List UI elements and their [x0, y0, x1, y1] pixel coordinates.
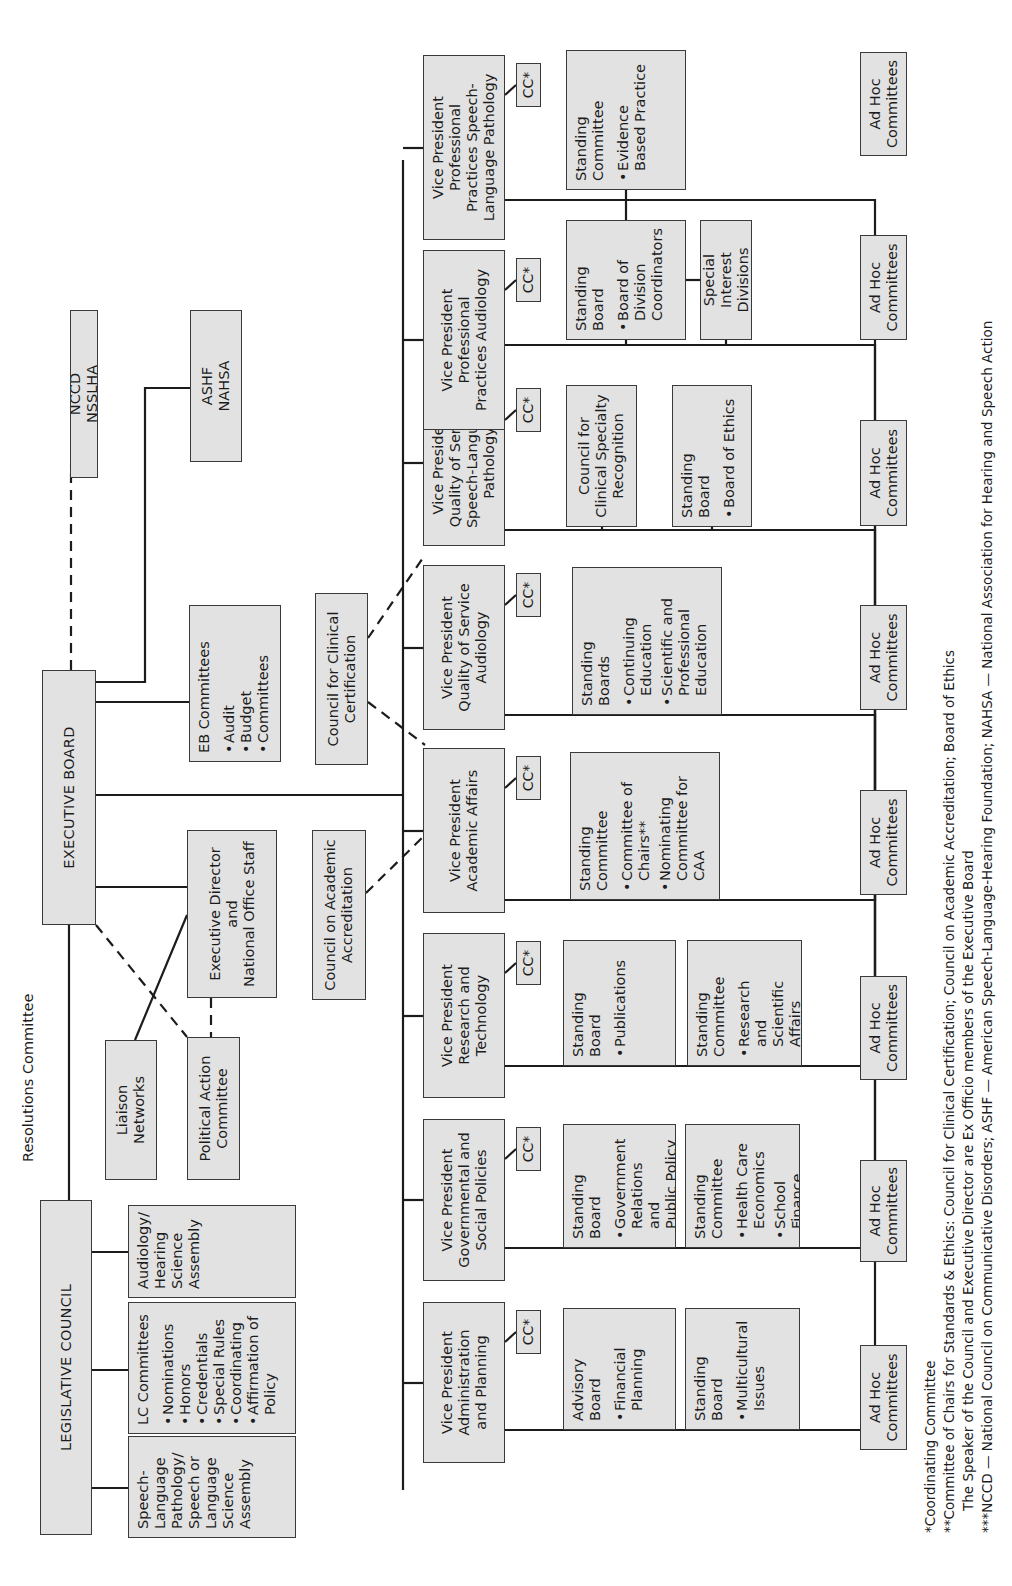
vp-7-group-0-content: Standing CommitteeEvidence Based Practic…: [573, 59, 649, 181]
vp-2-group-1: Standing CommitteeResearch and Scientifi…: [687, 940, 802, 1066]
ashf-connector: [96, 388, 190, 682]
vp-3-group-0-content: Standing CommitteeCommittee of Chairs**N…: [577, 761, 708, 891]
vp-2-group-0-content: Standing BoardPublications: [570, 949, 629, 1057]
political-action-committee-box: Political Action Committee: [187, 1037, 240, 1180]
legislative-child-1-content: LC CommitteesNominationsHonorsCredential…: [135, 1311, 279, 1425]
list-item: Nominating Committee for CAA: [657, 761, 708, 891]
list-item: Affirmation of Policy: [245, 1311, 279, 1425]
cc-box-5-content: CC*: [520, 397, 537, 424]
vp-4-group-0: Standing BoardsContinuing EducationScien…: [572, 567, 722, 715]
vp-1-group-1-title: Standing Committee: [692, 1133, 726, 1239]
liaison-networks-box-content: Liaison Networks: [114, 1049, 148, 1171]
vp-6-group-0-content: Standing BoardBoard of Division Coordina…: [573, 229, 666, 331]
vp-box-6: Vice President Professional Practices Au…: [423, 250, 505, 430]
vp-box-1-title: Vice President Governmental and Social P…: [439, 1132, 490, 1267]
ad-hoc-committees-1-title: Ad Hoc Committees: [867, 1167, 901, 1255]
vp-0-group-1-list: Multicultural Issues: [734, 1317, 768, 1421]
ad-hoc-committees-6-content: Ad Hoc Committees: [867, 243, 901, 331]
list-item: Honors: [177, 1311, 194, 1425]
council-academic-accreditation-box-content: Council on Academic Accreditation: [322, 839, 356, 990]
cc-connector: [505, 280, 516, 290]
ad-hoc-committees-3-content: Ad Hoc Committees: [867, 798, 901, 886]
vp-2-group-0: Standing BoardPublications: [563, 940, 676, 1066]
cc-box-7: CC*: [516, 63, 541, 107]
executive-director-box-title: Executive Director and National Office S…: [207, 841, 258, 987]
liaison-networks-box: Liaison Networks: [105, 1040, 157, 1180]
cc-box-6: CC*: [516, 258, 541, 302]
footnote-1: **Committee of Chairs for Standards & Et…: [940, 321, 959, 1533]
list-item: Scientific and Professional Education: [659, 576, 710, 706]
vp-6-group-1-content: Special Interest Divisions: [701, 229, 752, 331]
ad-hoc-committees-4-content: Ad Hoc Committees: [867, 613, 901, 701]
vp-box-0-content: Vice President Administration and Planni…: [439, 1329, 490, 1435]
resolutions-committee-label: Resolutions Committee: [20, 994, 36, 1162]
vp-2-group-0-list: Publications: [612, 949, 629, 1057]
vp-4-group-0-title: Standing Boards: [579, 576, 613, 706]
vp-0-group-1-content: Standing BoardMulticultural Issues: [692, 1317, 768, 1421]
footnote-2: The Speaker of the Council and Executive…: [959, 321, 978, 1533]
executive-director-box: Executive Director and National Office S…: [187, 830, 277, 998]
footnote-0: *Coordinating Committee: [921, 321, 940, 1533]
cc-box-6-content: CC*: [520, 267, 537, 294]
vp-0-group-0-content: Advisory BoardFinancial Planning: [570, 1317, 646, 1421]
vp-2-group-1-title: Standing Committee: [694, 949, 728, 1057]
ccc-dashed-line: [368, 555, 425, 638]
ad-hoc-committees-2-content: Ad Hoc Committees: [867, 984, 901, 1072]
legislative-council-box-content: LEGISLATIVE COUNCIL: [58, 1284, 75, 1451]
legislative-child-2: Audiology/ Hearing Science Assembly: [128, 1205, 296, 1298]
vp-6-group-1-title: Special Interest Divisions: [701, 229, 752, 331]
cc-box-0: CC*: [516, 1310, 541, 1354]
vp-5-group-1-content: Standing BoardBoard of Ethics: [679, 394, 738, 518]
executive-director-box-content: Executive Director and National Office S…: [207, 841, 258, 987]
vp-1-group-1-list: Health Care EconomicsSchool Finance: [734, 1133, 800, 1239]
vp-1-group-0-content: Standing BoardGovernment Relations and P…: [570, 1133, 676, 1239]
list-item: Continuing Education: [621, 576, 655, 706]
list-item: Evidence Based Practice: [615, 59, 649, 181]
vp-box-1: Vice President Governmental and Social P…: [423, 1119, 505, 1281]
ad-hoc-committees-2-title: Ad Hoc Committees: [867, 984, 901, 1072]
vp-5-group-1: Standing BoardBoard of Ethics: [672, 385, 752, 527]
ashf-nahsa-box-content: ASHF NAHSA: [199, 360, 233, 411]
ad-hoc-committees-7: Ad Hoc Committees: [860, 52, 907, 156]
vp-7-group-0-list: Evidence Based Practice: [615, 59, 649, 181]
footnotes: *Coordinating Committee**Committee of Ch…: [921, 321, 997, 1533]
vp-0-group-1: Standing BoardMulticultural Issues: [685, 1308, 800, 1430]
vp-5-group-0: Council for Clinical Specialty Recogniti…: [566, 385, 637, 527]
vp-6-group-0-list: Board of Division Coordinators: [615, 229, 666, 331]
cc-box-2-title: CC*: [520, 950, 537, 977]
cc-box-3-content: CC*: [520, 765, 537, 792]
cc-connector: [505, 85, 516, 95]
vp-5-group-1-title: Standing Board: [679, 394, 713, 518]
vp-box-7: Vice President Professional Practices Sp…: [423, 55, 505, 240]
vp-0-group-0-list: Financial Planning: [612, 1317, 646, 1421]
cc-box-3: CC*: [516, 756, 541, 800]
cc-box-7-content: CC*: [520, 72, 537, 99]
executive-board-box-title: EXECUTIVE BOARD: [61, 726, 78, 868]
vp-box-4: Vice President Quality of Service Audiol…: [423, 565, 505, 730]
legislative-child-1-list: NominationsHonorsCredentialsSpecial Rule…: [160, 1311, 279, 1425]
cc-box-4-content: CC*: [520, 582, 537, 609]
vp-4-group-0-content: Standing BoardsContinuing EducationScien…: [579, 576, 710, 706]
vp-box-0: Vice President Administration and Planni…: [423, 1302, 505, 1463]
legislative-child-2-title: Audiology/ Hearing Science Assembly: [135, 1214, 203, 1289]
list-item: Nominations: [160, 1311, 177, 1425]
vp-box-7-content: Vice President Professional Practices Sp…: [430, 74, 498, 222]
legislative-child-0-content: Speech- Language Pathology/ Speech or La…: [135, 1445, 254, 1529]
cc-box-3-title: CC*: [520, 765, 537, 792]
cc-box-2-content: CC*: [520, 950, 537, 977]
footnote-3: ***NCCD — National Council on Communicat…: [978, 321, 997, 1533]
cc-box-5-title: CC*: [520, 397, 537, 424]
vp-3-group-0-list: Committee of Chairs**Nominating Committe…: [619, 761, 708, 891]
ad-hoc-committees-6: Ad Hoc Committees: [860, 235, 907, 340]
vp-2-group-0-title: Standing Board: [570, 949, 604, 1057]
council-academic-accreditation-box-title: Council on Academic Accreditation: [322, 839, 356, 990]
vp-7-group-0: Standing CommitteeEvidence Based Practic…: [566, 50, 686, 190]
cc-box-2: CC*: [516, 941, 541, 985]
ad-hoc-committees-0-content: Ad Hoc Committees: [867, 1353, 901, 1441]
ccc-dashed-line: [368, 702, 425, 745]
vp-1-group-1: Standing CommitteeHealth Care EconomicsS…: [685, 1124, 800, 1248]
vp-box-2-title: Vice President Research and Technology: [439, 964, 490, 1067]
org-chart: LEGISLATIVE COUNCILEXECUTIVE BOARDNCCD N…: [0, 0, 1012, 1586]
ad-hoc-committees-7-title: Ad Hoc Committees: [867, 60, 901, 148]
vp-box-3-content: Vice President Academic Affairs: [447, 770, 481, 892]
